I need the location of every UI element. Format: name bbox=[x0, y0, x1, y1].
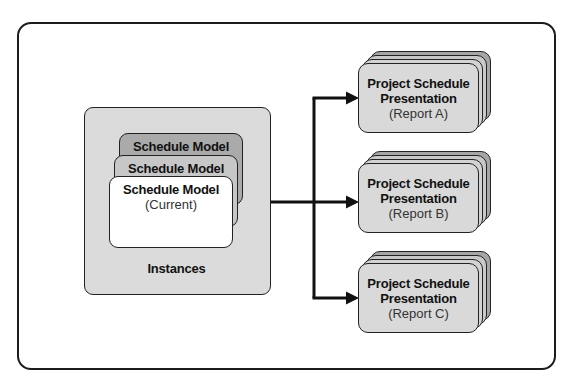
schedule-model-label: Schedule Model bbox=[115, 161, 237, 176]
report-title-line1: Project Schedule bbox=[367, 276, 469, 291]
schedule-model-label: Schedule Model bbox=[120, 139, 242, 154]
diagram-canvas: Schedule Model Schedule Model Schedule M… bbox=[0, 0, 574, 388]
schedule-model-label: Schedule Model bbox=[110, 182, 232, 197]
report-card-b: Project Schedule Presentation (Report B) bbox=[358, 163, 479, 233]
report-title-line1: Project Schedule bbox=[367, 176, 469, 191]
instances-label: Instances bbox=[84, 261, 269, 276]
current-label: (Current) bbox=[110, 197, 232, 212]
report-card-a: Project Schedule Presentation (Report A) bbox=[358, 63, 479, 133]
report-title-line2: Presentation bbox=[380, 191, 456, 206]
report-stack-c: Project Schedule Presentation (Report C) bbox=[358, 263, 479, 333]
schedule-model-card-current: Schedule Model (Current) bbox=[109, 176, 233, 248]
report-stack-b: Project Schedule Presentation (Report B) bbox=[358, 163, 479, 233]
report-title-line1: Project Schedule bbox=[367, 76, 469, 91]
report-subtitle: (Report B) bbox=[389, 206, 449, 221]
report-subtitle: (Report A) bbox=[389, 106, 448, 121]
report-card-c: Project Schedule Presentation (Report C) bbox=[358, 263, 479, 333]
report-title-line2: Presentation bbox=[380, 291, 456, 306]
report-title-line2: Presentation bbox=[380, 91, 456, 106]
report-subtitle: (Report C) bbox=[388, 306, 449, 321]
report-stack-a: Project Schedule Presentation (Report A) bbox=[358, 63, 479, 133]
